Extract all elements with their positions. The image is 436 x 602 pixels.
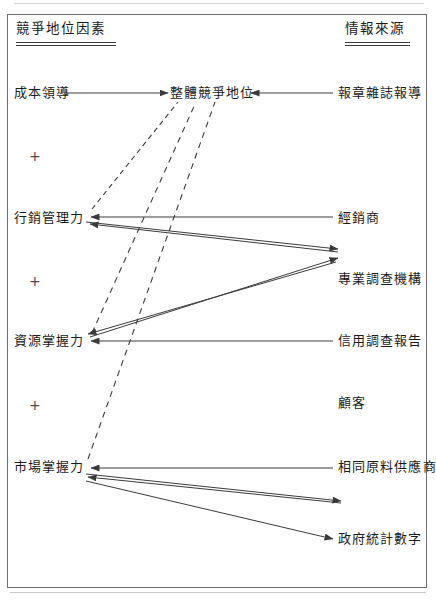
- node-distributors[interactable]: 經銷商: [338, 211, 380, 224]
- diagram-page: 競爭地位因素 情報來源: [0, 0, 436, 602]
- node-cost-leadership[interactable]: 成本領導: [14, 86, 70, 99]
- node-credit-report[interactable]: 信用調查報告: [338, 334, 423, 347]
- scan-artifact-top-line: [14, 3, 424, 4]
- node-market-control[interactable]: 市場掌握力: [14, 460, 85, 473]
- plus-connector-2: +: [29, 274, 41, 288]
- node-customers[interactable]: 顧客: [338, 396, 366, 409]
- node-marketing-capability[interactable]: 行銷管理力: [14, 211, 85, 224]
- right-column-header-underline: [345, 42, 410, 46]
- plus-connector-3: +: [29, 398, 41, 412]
- left-column-header: 競爭地位因素: [16, 22, 106, 36]
- node-research-agency[interactable]: 專業調查機構: [338, 272, 423, 285]
- left-column-header-underline: [16, 42, 116, 46]
- diagram-frame-border: [7, 14, 427, 588]
- plus-connector-1: +: [29, 149, 41, 163]
- scan-artifact-bottom-line: [10, 592, 426, 593]
- node-same-material-supplier[interactable]: 相同原料供應商: [338, 460, 436, 473]
- right-column-header: 情報來源: [345, 22, 405, 36]
- node-newspapers-magazines[interactable]: 報章雜誌報導: [338, 86, 423, 99]
- node-resource-control[interactable]: 資源掌握力: [14, 334, 85, 347]
- node-overall-competitive-position[interactable]: 整體競爭地位: [170, 86, 255, 99]
- node-government-statistics[interactable]: 政府統計數字: [338, 532, 423, 545]
